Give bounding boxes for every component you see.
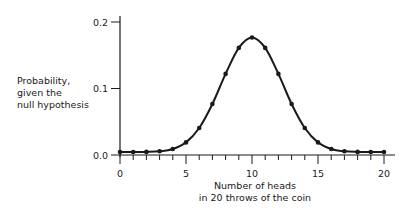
x-tick-label: 20: [378, 168, 390, 179]
x-tick-label: 0: [117, 168, 123, 179]
y-tick-label: 0.2: [93, 17, 108, 28]
data-point: [329, 147, 334, 152]
data-point: [342, 149, 347, 154]
data-point: [237, 46, 242, 51]
data-point: [144, 150, 149, 155]
x-axis-label: Number of heads in 20 throws of the coin: [190, 180, 320, 204]
plot-line: [118, 35, 387, 154]
y-tick-label: 0.0: [93, 150, 108, 161]
data-point: [382, 150, 387, 155]
data-point: [355, 150, 360, 155]
data-point: [250, 35, 255, 40]
probability-curve: [120, 37, 384, 152]
data-point: [118, 150, 123, 155]
data-point: [276, 72, 281, 77]
data-point: [210, 102, 215, 107]
y-axis-label: Probability, given the null hypothesis: [17, 75, 89, 111]
data-point: [197, 126, 202, 131]
y-tick-label: 0.1: [93, 83, 108, 94]
x-tick-label: 10: [246, 168, 258, 179]
data-point: [131, 150, 136, 155]
data-point: [171, 147, 176, 152]
data-point: [184, 140, 189, 145]
data-point: [316, 140, 321, 145]
data-point: [157, 149, 162, 154]
data-point: [289, 102, 294, 107]
x-tick-label: 5: [183, 168, 189, 179]
data-point: [303, 126, 308, 131]
data-point: [223, 72, 228, 77]
x-tick-label: 15: [312, 168, 324, 179]
data-point: [369, 150, 374, 155]
data-point: [263, 46, 268, 51]
